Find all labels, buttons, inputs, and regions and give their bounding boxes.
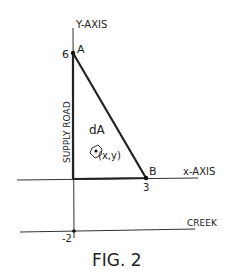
creek-label: CREEK (187, 218, 218, 228)
figure-diagram: Y-AXIS A 6 dA (x,y) B 3 x-AXIS CREEK -2 … (0, 0, 232, 280)
y-tick-6: 6 (62, 48, 69, 61)
x-axis-label: x-AXIS (183, 166, 215, 177)
point-b (144, 176, 148, 180)
point-b-label: B (149, 165, 157, 178)
x-tick-3: 3 (143, 182, 149, 193)
creek-line (20, 229, 195, 232)
point-a-label: A (77, 43, 85, 56)
supply-road-label: SUPPLY ROAD (62, 101, 72, 163)
point-creek (72, 229, 76, 233)
y-axis-label: Y-AXIS (75, 19, 107, 30)
da-label: dA (89, 123, 106, 137)
y-tick-neg2: -2 (62, 233, 72, 244)
point-a (71, 51, 75, 55)
figure-caption: FIG. 2 (92, 250, 142, 270)
element-coords-label: (x,y) (98, 150, 121, 161)
